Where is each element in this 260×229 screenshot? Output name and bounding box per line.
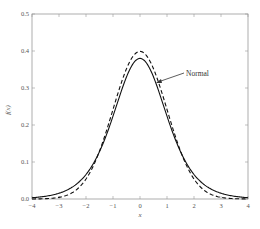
x-tick-label: −2 [83,202,90,209]
plot-frame [32,14,248,199]
normal-curve-dashed [32,51,248,199]
x-tick-label: −3 [56,202,63,209]
x-tick-label: 4 [246,202,250,209]
chart-root: 0.00.10.20.30.40.5 −4−3−2−101234 f(x) x … [0,0,260,229]
arrow-head-icon [156,79,162,83]
normal-label: Normal [186,69,209,78]
y-tick-label: 0.0 [21,195,29,202]
x-tick-label: 3 [219,202,222,209]
y-tick-label: 0.5 [21,10,29,17]
x-tick-label: −1 [110,202,117,209]
x-axis-label: x [137,211,142,219]
y-tick-label: 0.3 [21,84,29,91]
normal-annotation: Normal [156,69,209,83]
x-axis: −4−3−2−101234 [29,14,251,209]
x-tick-label: 2 [192,202,195,209]
y-tick-label: 0.1 [21,158,29,165]
x-tick-label: 0 [138,202,141,209]
x-tick-label: 1 [165,202,168,209]
y-tick-label: 0.2 [21,121,29,128]
y-tick-label: 0.4 [21,47,30,54]
curves [32,51,248,199]
y-axis: 0.00.10.20.30.40.5 [21,10,248,202]
solid-curve [32,58,248,197]
y-axis-label: f(x) [4,104,12,114]
x-tick-label: −4 [29,202,37,209]
